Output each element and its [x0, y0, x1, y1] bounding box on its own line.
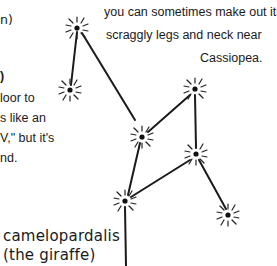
star-icon	[59, 79, 81, 101]
label-name: camelopardalis	[3, 227, 120, 245]
star-icon	[217, 204, 239, 226]
star-icon	[114, 190, 136, 212]
label-common-name: (the giraffe)	[3, 246, 96, 264]
